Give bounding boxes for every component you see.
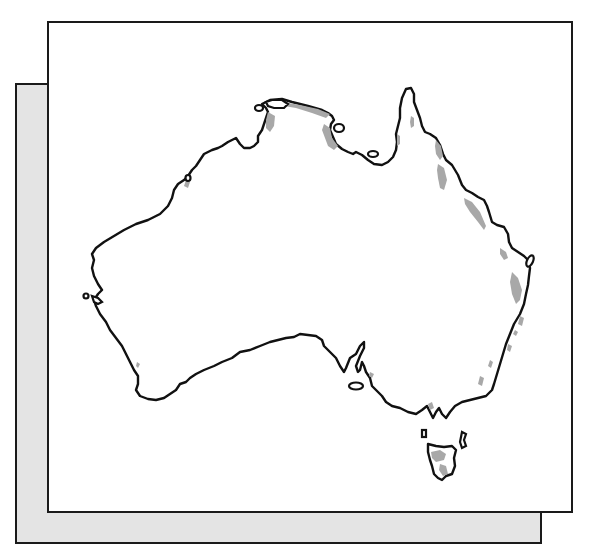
mornington-island [368, 151, 378, 157]
bathurst-island [255, 105, 263, 111]
groote-eylandt [334, 124, 344, 132]
mainland-outline [92, 88, 530, 418]
melville-island [266, 100, 288, 108]
kangaroo-island [349, 383, 363, 390]
fraser-island [525, 254, 536, 267]
flinders-island [460, 432, 466, 448]
cape-york-west-shade [397, 134, 400, 146]
dirk-hartog-island [84, 294, 89, 299]
australia-map [0, 0, 596, 548]
king-island [422, 430, 426, 437]
tasmania-outline [428, 444, 456, 480]
tasmania [428, 444, 456, 480]
kimberley-island [186, 175, 191, 181]
